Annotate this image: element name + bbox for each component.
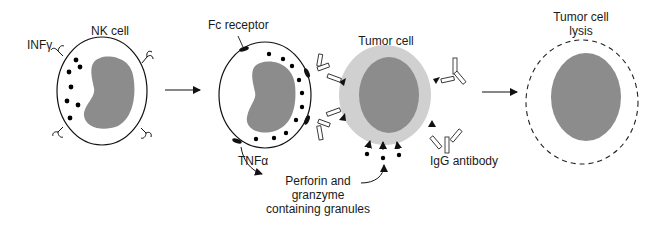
label-lysis-1: Tumor cell (553, 10, 609, 24)
lysed-tumor-cell (526, 40, 638, 164)
label-perforin-2: granzyme (292, 188, 345, 202)
label-tumor-cell: Tumor cell (358, 34, 414, 48)
label-lysis-2: lysis (569, 24, 592, 38)
perforin-arrow (361, 165, 384, 183)
label-fc-receptor: Fc receptor (208, 18, 269, 32)
nk-cell-engaged (219, 36, 311, 148)
label-perforin-1: Perforin and (285, 174, 350, 188)
released-granules (365, 152, 401, 160)
fc-receptor-pointer (238, 36, 243, 47)
label-tnf-alpha: TNFα (238, 154, 268, 168)
label-perforin-3: containing granules (266, 202, 370, 216)
label-inf-gamma: INFγ (27, 38, 52, 52)
label-nk-cell: NK cell (91, 24, 129, 38)
label-igg-antibody: IgG antibody (430, 154, 498, 168)
tumor-cell (339, 45, 440, 160)
nk-cell (51, 37, 153, 145)
diagram-canvas: NK cell INFγ Fc receptor TNFα Tumor cell… (0, 0, 665, 228)
